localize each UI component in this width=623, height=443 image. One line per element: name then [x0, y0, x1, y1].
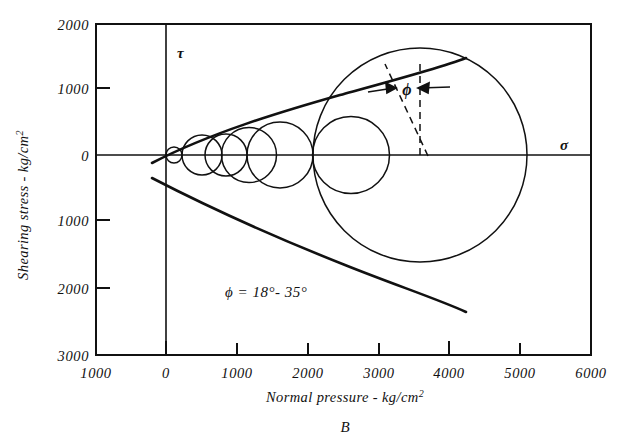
envelope-upper-branch	[152, 58, 466, 163]
figure-canvas: 2000 1000 0 1000 2000 3000 1000 0 1000 2…	[0, 0, 623, 443]
axis-lines	[96, 24, 591, 355]
x-tick-label-2: 1000	[221, 365, 253, 381]
failure-envelope	[152, 58, 466, 312]
x-axis-ticks	[166, 341, 520, 355]
frame-border	[96, 24, 591, 355]
y-tick-label-0: 2000	[58, 17, 90, 33]
y-axis-title-group: Shearing stress - kg/cm2	[14, 130, 31, 280]
y-axis-title-superscript: 2	[14, 130, 25, 135]
mohr-circle-figure: 2000 1000 0 1000 2000 3000 1000 0 1000 2…	[0, 0, 623, 443]
y-tick-label-4: 2000	[58, 281, 90, 297]
x-tick-label-4: 3000	[362, 365, 395, 381]
envelope-lower-branch	[152, 178, 466, 312]
phi-range-annotation: ϕ = 18°- 35°	[225, 284, 307, 300]
y-axis-tick-labels: 2000 1000 0 1000 2000 3000	[57, 17, 90, 364]
x-tick-label-0: 1000	[80, 365, 112, 381]
svg-text:Shearing stress - kg/cm2: Shearing stress - kg/cm2	[14, 130, 31, 280]
y-tick-label-2: 0	[81, 148, 89, 164]
sigma-symbol: σ	[560, 137, 569, 153]
y-tick-label-1: 1000	[58, 81, 90, 97]
x-tick-label-3: 2000	[292, 365, 324, 381]
x-axis-title-text: Normal pressure - kg/cm	[265, 389, 419, 405]
x-tick-label-7: 6000	[575, 365, 607, 381]
phi-angle-label: ϕ	[402, 81, 411, 99]
svg-text:Normal pressure - kg/cm2: Normal pressure - kg/cm2	[265, 388, 424, 405]
y-axis-title-text: Shearing stress - kg/cm	[15, 136, 31, 280]
panel-label: B	[340, 419, 349, 435]
x-tick-label-5: 4000	[433, 365, 465, 381]
x-axis-tick-labels: 1000 0 1000 2000 3000 4000 5000 6000	[80, 365, 607, 381]
x-axis-title-group: Normal pressure - kg/cm2	[265, 388, 424, 405]
y-axis-ticks	[96, 88, 110, 288]
x-tick-label-1: 0	[162, 365, 170, 381]
x-axis-title-superscript: 2	[419, 388, 424, 399]
plot-frame	[96, 24, 591, 355]
y-tick-label-5: 3000	[57, 348, 90, 364]
tau-symbol: τ	[177, 45, 185, 61]
y-tick-label-3: 1000	[58, 213, 90, 229]
x-tick-label-6: 5000	[504, 365, 536, 381]
